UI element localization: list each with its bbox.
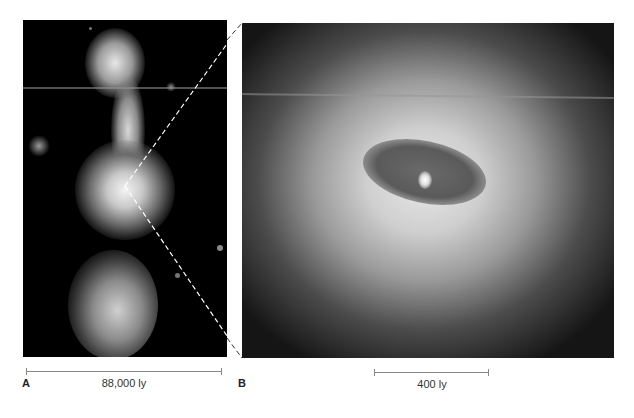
scale-label-a: 88,000 ly [102, 377, 147, 389]
scale-label-b: 400 ly [417, 378, 446, 390]
scale-bar-b [374, 372, 489, 373]
panel-label-b: B [238, 377, 246, 389]
zoom-connector-lines [0, 0, 634, 418]
scale-bar-a [26, 371, 222, 372]
panel-label-a: A [22, 377, 30, 389]
